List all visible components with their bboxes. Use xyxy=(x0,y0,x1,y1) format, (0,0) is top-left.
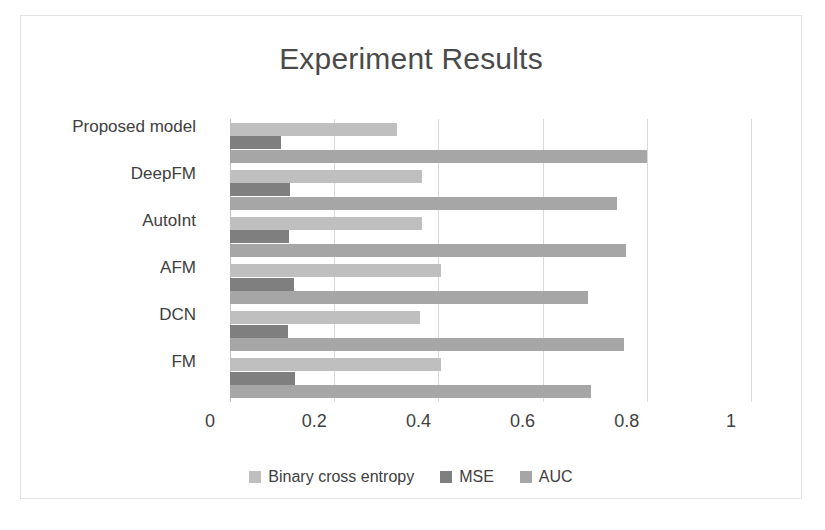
bar-group xyxy=(230,119,751,166)
legend-swatch-icon xyxy=(440,471,452,483)
bar xyxy=(230,291,588,304)
value-tick-label: 0.6 xyxy=(510,411,535,432)
bar-group xyxy=(230,261,751,308)
legend-swatch-icon xyxy=(520,471,532,483)
gridline xyxy=(751,119,752,402)
chart-title: Experiment Results xyxy=(21,42,801,76)
bar-group xyxy=(230,166,751,213)
bar xyxy=(230,385,591,398)
bar-group xyxy=(230,213,751,260)
bar xyxy=(230,358,441,371)
category-label: DCN xyxy=(0,305,196,325)
value-tick-label: 0.8 xyxy=(614,411,639,432)
legend-swatch-icon xyxy=(249,471,261,483)
chart-legend: Binary cross entropyMSEAUC xyxy=(21,468,801,486)
plot-area xyxy=(230,119,751,402)
category-label: FM xyxy=(0,352,196,372)
bar xyxy=(230,136,281,149)
legend-item[interactable]: AUC xyxy=(520,468,573,486)
bar xyxy=(230,338,624,351)
legend-item[interactable]: Binary cross entropy xyxy=(249,468,414,486)
value-tick-label: 0.2 xyxy=(302,411,327,432)
bar xyxy=(230,150,647,163)
value-tick-label: 1 xyxy=(726,411,736,432)
value-tick-label: 0.4 xyxy=(406,411,431,432)
bar xyxy=(230,230,289,243)
bar xyxy=(230,244,626,257)
bar xyxy=(230,325,288,338)
category-label: AFM xyxy=(0,258,196,278)
bar xyxy=(230,170,422,183)
bar xyxy=(230,311,420,324)
legend-item[interactable]: MSE xyxy=(440,468,494,486)
bar xyxy=(230,372,295,385)
bar xyxy=(230,278,294,291)
bar xyxy=(230,197,617,210)
bar-group xyxy=(230,308,751,355)
bar xyxy=(230,123,397,136)
bar xyxy=(230,217,422,230)
legend-label: Binary cross entropy xyxy=(268,468,414,486)
category-label: DeepFM xyxy=(0,164,196,184)
bar xyxy=(230,183,290,196)
legend-label: MSE xyxy=(459,468,494,486)
chart-frame: Experiment Results FMDCNAFMAutoIntDeepFM… xyxy=(20,15,802,499)
bar xyxy=(230,264,441,277)
category-label: AutoInt xyxy=(0,211,196,231)
value-tick-label: 0 xyxy=(205,411,215,432)
legend-label: AUC xyxy=(539,468,573,486)
bar-group xyxy=(230,355,751,402)
category-label: Proposed model xyxy=(0,117,196,137)
